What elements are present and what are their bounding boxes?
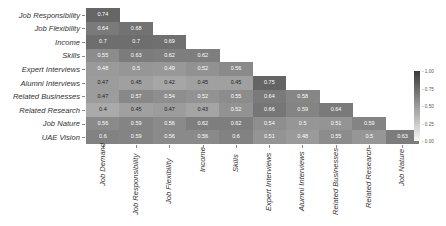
- heatmap-cell: 0.5: [352, 130, 386, 144]
- colorbar-tick: - 0.25: [422, 122, 434, 127]
- heatmap-cell: 0.56: [153, 130, 187, 144]
- heatmap-cell: 0.55: [86, 49, 120, 63]
- heatmap-cell: 0.45: [219, 76, 253, 90]
- heatmap-cell: 0.56: [219, 62, 253, 76]
- heatmap-cell: 0.54: [153, 90, 187, 104]
- y-tick: [82, 137, 85, 138]
- heatmap-cell: 0.64: [319, 103, 353, 117]
- column-label: Income: [198, 147, 207, 172]
- y-tick: [82, 28, 85, 29]
- y-tick: [82, 96, 85, 97]
- heatmap-cell: 0.55: [219, 90, 253, 104]
- column-label: Job Responsibility: [131, 154, 140, 215]
- heatmap-cell: 0.45: [186, 76, 220, 90]
- colorbar-tick: - 0.75: [422, 87, 434, 92]
- row-label: Job Nature: [43, 119, 80, 128]
- x-tick: [136, 145, 137, 148]
- heatmap-cell: 0.47: [153, 103, 187, 117]
- heatmap-cell: 0.68: [119, 22, 153, 36]
- heatmap-cell: 0.6: [219, 130, 253, 144]
- column-label: Expert Interviews: [264, 153, 273, 211]
- column-label: Alumni Interviews: [297, 152, 306, 212]
- row-label: Related Research: [19, 106, 80, 115]
- heatmap-cell: 0.43: [186, 103, 220, 117]
- column-label: Job Nature: [397, 149, 406, 186]
- colorbar-tick: - 1.00: [422, 69, 434, 74]
- row-label: Job Flexibility: [34, 24, 80, 33]
- row-label: Alumni Interviews: [20, 79, 80, 88]
- heatmap-cell: 0.69: [153, 35, 187, 49]
- heatmap-cell: 0.7: [119, 35, 153, 49]
- heatmap-cell: 0.55: [319, 130, 353, 144]
- heatmap-cell: 0.58: [286, 90, 320, 104]
- heatmap-cell: 0.49: [153, 62, 187, 76]
- colorbar-tick: - 0.50: [422, 104, 434, 109]
- heatmap-cell: 0.56: [86, 117, 120, 131]
- x-tick: [236, 145, 237, 148]
- colorbar: [414, 71, 420, 141]
- column-label: Related Research: [364, 147, 373, 208]
- row-label: Related Businesses: [13, 92, 80, 101]
- heatmap-cell: 0.5: [286, 117, 320, 131]
- heatmap-cell: 0.59: [352, 117, 386, 131]
- heatmap-cell: 0.42: [153, 76, 187, 90]
- heatmap-cell: 0.54: [253, 117, 287, 131]
- heatmap-cell: 0.48: [86, 62, 120, 76]
- y-tick: [82, 15, 85, 16]
- x-tick: [402, 145, 403, 148]
- heatmap-cell: 0.59: [119, 117, 153, 131]
- row-label: Income: [55, 38, 80, 47]
- column-label: Job Flexibility: [164, 158, 173, 204]
- y-tick: [82, 110, 85, 111]
- heatmap-cell: 0.5: [119, 62, 153, 76]
- column-label: Job Demand: [98, 143, 107, 186]
- heatmap-cell: 0.62: [153, 49, 187, 63]
- x-tick: [169, 145, 170, 148]
- heatmap-cell: 0.59: [286, 103, 320, 117]
- heatmap-cell: 0.48: [286, 130, 320, 144]
- heatmap-cell: 0.59: [119, 130, 153, 144]
- y-tick: [82, 42, 85, 43]
- heatmap-cell: 0.62: [219, 117, 253, 131]
- correlation-heatmap: Job Responsibility0.74Job Flexibility0.6…: [0, 0, 446, 226]
- heatmap-cell: 0.52: [186, 90, 220, 104]
- y-tick: [82, 69, 85, 70]
- heatmap-cell: 0.51: [253, 130, 287, 144]
- heatmap-cell: 0.64: [253, 90, 287, 104]
- heatmap-cell: 0.56: [186, 130, 220, 144]
- row-label: UAE Vision: [42, 133, 80, 142]
- column-label: Skills: [231, 154, 240, 172]
- heatmap-cell: 0.63: [119, 49, 153, 63]
- heatmap-cell: 0.51: [319, 117, 353, 131]
- heatmap-cell: 0.47: [86, 90, 120, 104]
- x-tick: [269, 145, 270, 148]
- row-label: Skills: [62, 51, 80, 60]
- y-tick: [82, 56, 85, 57]
- heatmap-cell: 0.47: [86, 76, 120, 90]
- heatmap-cell: 0.57: [119, 90, 153, 104]
- row-label: Job Responsibility: [19, 11, 80, 20]
- x-tick: [302, 145, 303, 148]
- heatmap-cell: 0.62: [186, 117, 220, 131]
- heatmap-cell: 0.74: [86, 8, 120, 22]
- heatmap-cell: 0.52: [219, 103, 253, 117]
- heatmap-cell: 0.66: [253, 103, 287, 117]
- heatmap-cell: 0.64: [86, 22, 120, 36]
- column-label: Related Businesses: [331, 148, 340, 215]
- heatmap-cell: 0.56: [153, 117, 187, 131]
- heatmap-cell: 0.75: [253, 76, 287, 90]
- heatmap-cell: 0.45: [119, 103, 153, 117]
- heatmap-cell: 0.62: [186, 49, 220, 63]
- heatmap-cell: 0.7: [86, 35, 120, 49]
- colorbar-tick: - 0.00: [422, 139, 434, 144]
- y-tick: [82, 83, 85, 84]
- y-tick: [82, 124, 85, 125]
- heatmap-cell: 0.4: [86, 103, 120, 117]
- row-label: Expert Interviews: [22, 65, 80, 74]
- heatmap-cell: 0.45: [119, 76, 153, 90]
- heatmap-cell: 0.52: [186, 62, 220, 76]
